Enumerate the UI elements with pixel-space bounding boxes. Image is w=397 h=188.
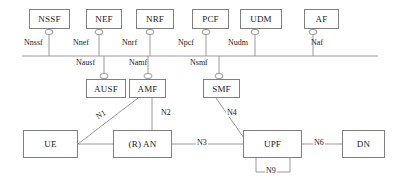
nf-box-pcf[interactable]: PCF [192,9,229,29]
reference-point-label-n4: N4 [226,108,238,117]
nf-box-dn[interactable]: DN [342,130,385,158]
nf-box-ran[interactable]: (R) AN [113,130,172,158]
nf-box-udm[interactable]: UDM [240,9,282,29]
sbi-label-nnrf: Nnrf [122,38,137,47]
nf-box-upf[interactable]: UPF [243,130,302,158]
sbi-label-nudm: Nudm [228,38,248,47]
reference-point-label-n9: N9 [265,166,277,175]
nf-label-nef: NEF [95,14,113,24]
sbi-label-namf: Namf [129,58,147,67]
nf-label-af: AF [316,14,328,24]
nf-box-af[interactable]: AF [304,9,339,29]
nf-box-nssf[interactable]: NSSF [29,9,70,29]
nf-label-ran: (R) AN [129,139,157,149]
nf-label-nrf: NRF [146,14,164,24]
nf-label-ausf: AUSF [94,84,118,94]
nf-box-nef[interactable]: NEF [86,9,122,29]
sbi-label-nnef: Nnef [73,38,89,47]
sbi-connector-udm [251,29,259,34]
sbi-connector-nrf [146,29,154,34]
sbi-label-npcf: Npcf [178,38,194,47]
nf-label-ue: UE [44,139,56,149]
nf-box-ue[interactable]: UE [23,130,78,158]
sbi-connector-ausf [100,73,108,78]
nf-box-smf[interactable]: SMF [203,79,240,98]
network-architecture-diagram: NSSF NEF NRF PCF UDM AF AUSF AMF SMF UE … [0,0,397,188]
sbi-connector-nef [95,29,103,34]
nf-label-upf: UPF [264,139,281,149]
sbi-label-nnssf: Nnssf [24,38,43,47]
nf-label-pcf: PCF [202,14,219,24]
sbi-label-nausf: Nausf [76,58,95,67]
sbi-connector-af [309,29,317,34]
nf-label-nssf: NSSF [38,14,60,24]
sbi-label-nsmf: Nsmf [190,58,208,67]
nf-box-amf[interactable]: AMF [129,79,166,98]
nf-box-nrf[interactable]: NRF [136,9,174,29]
reference-point-label-n2: N2 [160,108,172,117]
sbi-connector-smf [215,73,223,78]
reference-point-label-n3: N3 [196,138,208,147]
sbi-connector-pcf [202,29,210,34]
reference-point-label-n6: N6 [313,138,325,147]
nf-label-udm: UDM [250,14,272,24]
nf-label-smf: SMF [212,84,231,94]
nf-box-ausf[interactable]: AUSF [86,79,126,98]
sbi-connector-group [45,29,317,78]
sbi-label-naf: Naf [311,38,323,47]
sbi-connector-nssf [45,29,53,34]
nf-label-amf: AMF [137,84,157,94]
nf-label-dn: DN [357,139,370,149]
link-n4 [216,98,246,141]
sbi-connector-amf [144,73,152,78]
